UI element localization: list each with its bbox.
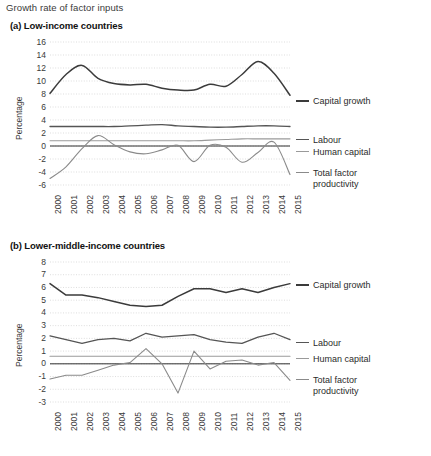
panel-a-plot xyxy=(50,42,290,185)
x-axis-tick-label: 2000 xyxy=(54,195,63,214)
y-axis-tick-label: 2 xyxy=(24,334,46,343)
y-axis-tick-label: 4 xyxy=(24,308,46,317)
panel-b-plot xyxy=(50,262,290,402)
panel-low-income: (a) Low-income countries Percentage 1614… xyxy=(0,0,431,232)
y-axis-tick-label: 10 xyxy=(24,77,46,86)
x-axis-tick-label: 2008 xyxy=(182,412,191,431)
y-axis-tick-label: 1 xyxy=(24,347,46,356)
legend-swatch xyxy=(296,358,309,359)
y-axis-tick-label: 4 xyxy=(24,116,46,125)
x-axis-tick-label: 2014 xyxy=(278,412,287,431)
x-axis-tick-label: 2012 xyxy=(246,195,255,214)
x-axis-tick-label: 2015 xyxy=(294,412,303,431)
legend-label: Labour xyxy=(313,135,341,146)
x-axis-tick-label: 2003 xyxy=(102,412,111,431)
x-axis-tick-label: 2015 xyxy=(294,195,303,214)
x-axis-tick-label: 2003 xyxy=(102,195,111,214)
series-line-labour xyxy=(50,125,290,128)
panel-b-title: (b) Lower-middle-income countries xyxy=(10,240,165,251)
y-axis-tick-label: 0 xyxy=(24,142,46,151)
y-axis-tick-label: 3 xyxy=(24,321,46,330)
x-axis-tick-label: 2005 xyxy=(134,412,143,431)
x-axis-tick-label: 2012 xyxy=(246,412,255,431)
panel-a-title: (a) Low-income countries xyxy=(10,20,123,31)
y-axis-tick-label: -2 xyxy=(24,385,46,394)
series-line-capital-growth xyxy=(50,61,290,95)
panel-lower-middle-income: (b) Lower-middle-income countries Percen… xyxy=(0,232,431,456)
y-axis-tick-label: -6 xyxy=(24,181,46,190)
legend-label: Total factor productivity xyxy=(313,375,359,396)
y-axis-tick-label: -2 xyxy=(24,155,46,164)
y-axis-tick-label: -4 xyxy=(24,168,46,177)
x-axis-tick-label: 2007 xyxy=(166,412,175,431)
panel-a-ylabel: Percentage xyxy=(14,97,24,140)
x-axis-tick-label: 2014 xyxy=(278,195,287,214)
x-axis-tick-label: 2005 xyxy=(134,195,143,214)
y-axis-tick-label: 0 xyxy=(24,359,46,368)
figure-container: Growth rate of factor inputs (a) Low-inc… xyxy=(0,0,431,456)
x-axis-tick-label: 2011 xyxy=(230,413,239,431)
legend-swatch xyxy=(296,139,309,140)
x-axis-tick-label: 2004 xyxy=(118,412,127,431)
series-line-total-factor-productivity xyxy=(50,349,290,394)
x-axis-tick-label: 2004 xyxy=(118,195,127,214)
y-axis-tick-label: 14 xyxy=(24,51,46,60)
legend-label: Total factor productivity xyxy=(313,168,359,189)
x-axis-tick-label: 2011 xyxy=(230,196,239,214)
x-axis-tick-label: 2013 xyxy=(262,412,271,431)
x-axis-tick-label: 2013 xyxy=(262,195,271,214)
x-axis-tick-label: 2006 xyxy=(150,195,159,214)
series-line-human-capital xyxy=(50,139,290,141)
legend-label: Human capital xyxy=(313,147,371,158)
y-axis-tick-label: 7 xyxy=(24,270,46,279)
legend-swatch xyxy=(296,172,309,173)
x-axis-tick-label: 2006 xyxy=(150,412,159,431)
x-axis-tick-label: 2007 xyxy=(166,195,175,214)
legend-label: Capital growth xyxy=(313,96,371,107)
y-axis-tick-label: 2 xyxy=(24,129,46,138)
x-axis-tick-label: 2002 xyxy=(86,412,95,431)
y-axis-tick-label: -3 xyxy=(24,398,46,407)
x-axis-tick-label: 2009 xyxy=(198,412,207,431)
legend-swatch xyxy=(296,379,309,380)
y-axis-tick-label: 6 xyxy=(24,283,46,292)
x-axis-tick-label: 2000 xyxy=(54,412,63,431)
x-axis-tick-label: 2009 xyxy=(198,195,207,214)
y-axis-tick-label: 12 xyxy=(24,64,46,73)
x-axis-tick-label: 2001 xyxy=(70,412,79,431)
legend-swatch xyxy=(296,151,309,152)
y-axis-tick-label: 5 xyxy=(24,296,46,305)
legend-label: Labour xyxy=(313,338,341,349)
y-axis-tick-label: 8 xyxy=(24,90,46,99)
y-axis-tick-label: 6 xyxy=(24,103,46,112)
legend-label: Capital growth xyxy=(313,280,371,291)
y-axis-tick-label: 8 xyxy=(24,258,46,267)
legend-label: Human capital xyxy=(313,354,371,365)
x-axis-tick-label: 2010 xyxy=(214,195,223,214)
x-axis-tick-label: 2001 xyxy=(70,195,79,214)
series-line-capital-growth xyxy=(50,284,290,307)
x-axis-tick-label: 2008 xyxy=(182,195,191,214)
x-axis-tick-label: 2002 xyxy=(86,195,95,214)
panel-b-ylabel: Percentage xyxy=(14,324,24,367)
legend-swatch xyxy=(296,100,309,102)
y-axis-tick-label: -1 xyxy=(24,372,46,381)
y-axis-tick-label: 16 xyxy=(24,38,46,47)
x-axis-tick-label: 2010 xyxy=(214,412,223,431)
legend-swatch xyxy=(296,342,309,343)
legend-swatch xyxy=(296,284,309,286)
